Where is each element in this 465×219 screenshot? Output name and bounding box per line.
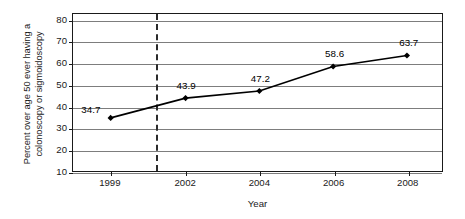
data-point-label: 43.9 [177,81,196,91]
y-tick-label: 20 [47,145,67,155]
y-tick-label: 40 [47,102,67,112]
data-point-marker [330,63,336,69]
gridline [73,173,442,174]
data-point-label: 47.2 [251,74,270,84]
data-point-marker [182,95,188,101]
data-point-label: 58.6 [325,49,344,59]
y-tick-label: 10 [47,167,67,177]
y-tick-mark [69,173,73,174]
y-tick-label: 80 [47,15,67,25]
x-tick-label: 2008 [397,178,418,188]
x-tick-mark [260,171,261,176]
data-point-label: 34.7 [81,105,100,115]
x-tick-mark [186,171,187,176]
y-tick-label: 60 [47,58,67,68]
x-tick-label: 1999 [99,178,120,188]
data-point-marker [256,88,262,94]
x-tick-label: 2002 [174,178,195,188]
x-tick-mark [335,171,336,176]
y-tick-label: 70 [47,37,67,47]
data-point-label: 63.7 [399,38,418,48]
y-axis-title-line-1: Percent over age 50 ever having a [23,24,32,164]
x-tick-mark [409,171,410,176]
plot-area: 34.743.947.258.663.7 [72,13,443,172]
y-tick-label: 50 [47,80,67,90]
data-series [73,14,442,171]
x-tick-label: 2006 [323,178,344,188]
y-tick-label: 30 [47,124,67,134]
x-axis-title: Year [72,199,443,209]
series-line [111,56,407,118]
x-axis-tick-labels: 19992002200420062008 [72,178,443,192]
chart-figure: Percent over age 50 ever having a colono… [0,0,465,219]
x-tick-label: 2004 [249,178,270,188]
x-tick-mark [111,171,112,176]
data-point-marker [108,115,114,121]
data-point-marker [404,52,410,58]
y-axis-tick-labels: 1020304050607080 [47,0,67,219]
y-axis-title-line-2: colonoscopy or sigmoidoscopy [35,31,44,156]
